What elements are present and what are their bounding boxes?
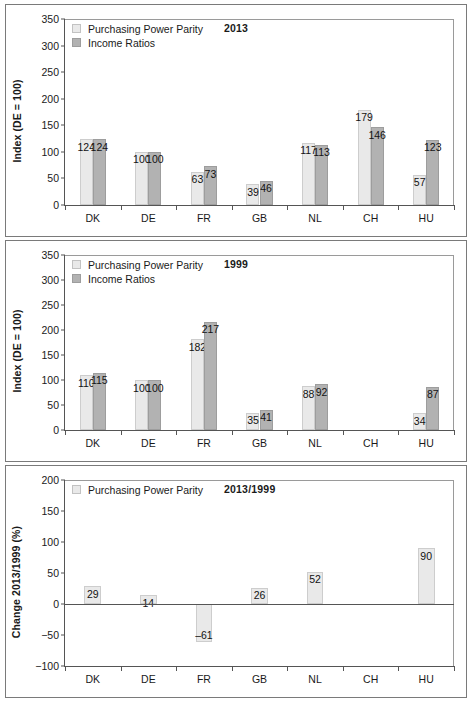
- y-axis-tick-label: 300: [23, 274, 65, 286]
- y-axis-tick-label: 200: [23, 93, 65, 105]
- plot-frame-right: [453, 255, 454, 430]
- bar-value-label: 29: [87, 589, 99, 600]
- bar-value-label: 100: [146, 154, 164, 165]
- plot-area-1999: 050100150200250300350DK110115DE100100FR1…: [64, 255, 454, 431]
- x-axis-tick-mark: [343, 430, 344, 435]
- y-axis-tick-label: 250: [23, 66, 65, 78]
- x-axis-category-label: HU: [419, 437, 434, 449]
- zero-baseline: [65, 604, 454, 605]
- y-axis-tick-mark: [61, 480, 66, 481]
- x-axis-tick-mark: [121, 205, 122, 210]
- y-axis-tick-mark: [61, 405, 66, 406]
- x-axis-tick-mark: [398, 205, 399, 210]
- y-axis-tick-label: 200: [23, 324, 65, 336]
- bar-value-label: 63: [192, 174, 204, 185]
- x-axis-tick-mark: [287, 430, 288, 435]
- y-axis-title: Change 2013/1999 (%): [8, 466, 24, 697]
- bar-value-label: 100: [146, 383, 164, 394]
- y-axis-tick-label: 350: [23, 13, 65, 25]
- x-axis-category-label: FR: [197, 673, 211, 685]
- y-axis-tick-label: 100: [23, 374, 65, 386]
- x-axis-tick-mark: [454, 205, 455, 210]
- x-axis-category-label: DE: [141, 212, 156, 224]
- x-axis-tick-mark: [287, 205, 288, 210]
- y-axis-tick-mark: [61, 72, 66, 73]
- plot-frame-right: [453, 480, 454, 666]
- x-axis-category-label: NL: [308, 437, 321, 449]
- bar-value-label: 88: [303, 389, 315, 400]
- y-axis-tick-mark: [61, 151, 66, 152]
- x-axis-tick-mark: [176, 205, 177, 210]
- plot-area-change: −100−50050100150200DK29DE14FR–61GB26NL52…: [64, 480, 454, 667]
- bar-value-label: 57: [414, 177, 426, 188]
- y-axis-tick-label: 100: [23, 536, 65, 548]
- x-axis-tick-mark: [65, 666, 66, 671]
- y-axis-tick-label: 300: [23, 40, 65, 52]
- x-axis-category-label: CH: [363, 673, 378, 685]
- y-axis-tick-mark: [61, 255, 66, 256]
- x-axis-category-label: DK: [85, 673, 100, 685]
- x-axis-category-label: CH: [363, 212, 378, 224]
- x-axis-tick-mark: [454, 430, 455, 435]
- y-axis-title: Index (DE = 100): [8, 241, 24, 461]
- plot-area-2013: 050100150200250300350DK124124DE100100FR6…: [64, 19, 454, 206]
- y-axis-tick-mark: [61, 330, 66, 331]
- y-axis-tick-label: 100: [23, 146, 65, 158]
- x-axis-category-label: GB: [252, 212, 267, 224]
- x-axis-category-label: DE: [141, 673, 156, 685]
- x-axis-tick-mark: [176, 666, 177, 671]
- y-axis-tick-mark: [61, 45, 66, 46]
- bar-value-label: 41: [260, 412, 272, 423]
- y-axis-tick-mark: [61, 98, 66, 99]
- plot-frame-top: [65, 480, 454, 481]
- y-axis-tick-label: 150: [23, 505, 65, 517]
- y-axis-title: Index (DE = 100): [8, 5, 24, 236]
- x-axis-tick-mark: [121, 666, 122, 671]
- bar: [204, 322, 217, 431]
- y-axis-tick-mark: [61, 125, 66, 126]
- x-axis-tick-mark: [398, 666, 399, 671]
- bar-value-label: 35: [247, 415, 259, 426]
- bar-value-label: 52: [309, 574, 321, 585]
- x-axis-tick-mark: [232, 205, 233, 210]
- bar-value-label: 113: [313, 147, 330, 158]
- bar-value-label: 26: [254, 590, 266, 601]
- y-axis-tick-label: 150: [23, 349, 65, 361]
- x-axis-category-label: FR: [197, 437, 211, 449]
- y-axis-tick-label: −100: [23, 660, 65, 672]
- bar-value-label: 217: [202, 324, 220, 335]
- y-axis-tick-label: 50: [23, 567, 65, 579]
- y-axis-tick-label: 0: [23, 424, 65, 436]
- x-axis-category-label: GB: [252, 437, 267, 449]
- y-axis-tick-label: 200: [23, 474, 65, 486]
- x-axis-tick-mark: [454, 666, 455, 671]
- plot-frame-top: [65, 255, 454, 256]
- x-axis-tick-mark: [65, 205, 66, 210]
- bar-value-label: 46: [260, 183, 272, 194]
- x-axis-tick-mark: [287, 666, 288, 671]
- x-axis-tick-mark: [232, 430, 233, 435]
- plot-frame-top: [65, 19, 454, 20]
- chart-panel-2013: Index (DE = 100) Purchasing Power Parity…: [5, 4, 467, 237]
- x-axis-category-label: DK: [85, 212, 100, 224]
- x-axis-tick-mark: [232, 666, 233, 671]
- figure-container: Index (DE = 100) Purchasing Power Parity…: [0, 0, 472, 705]
- x-axis-tick-mark: [176, 430, 177, 435]
- y-axis-tick-mark: [61, 511, 66, 512]
- bar: [358, 110, 371, 205]
- y-axis-tick-label: 50: [23, 172, 65, 184]
- plot-frame-right: [453, 19, 454, 205]
- bar-value-label: 39: [247, 187, 259, 198]
- y-axis-tick-label: 0: [23, 598, 65, 610]
- bar-value-label: 34: [414, 416, 426, 427]
- bar-value-label: 115: [91, 375, 108, 386]
- bar-value-label: –61: [195, 630, 213, 641]
- x-axis-category-label: FR: [197, 212, 211, 224]
- chart-panel-1999: Index (DE = 100) Purchasing Power Parity…: [5, 240, 467, 462]
- x-axis-category-label: GB: [252, 673, 267, 685]
- bar: [191, 339, 204, 430]
- y-axis-tick-mark: [61, 573, 66, 574]
- y-axis-tick-label: −50: [23, 629, 65, 641]
- y-axis-tick-mark: [61, 380, 66, 381]
- y-axis-tick-label: 150: [23, 119, 65, 131]
